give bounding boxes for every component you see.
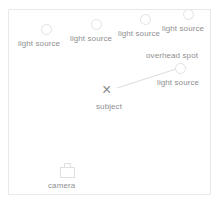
light-source-label: light source [118,29,160,38]
light-source-label: light source [18,39,60,48]
camera-body-icon [60,167,75,178]
overhead-spot-label: overhead spot [146,51,198,60]
subject-label: subject [96,102,122,111]
lighting-diagram: light source light source light source l… [0,0,220,205]
light-source-icon[interactable] [140,14,151,25]
light-source-icon[interactable] [175,63,186,74]
subject-marker-icon[interactable]: × [102,82,111,98]
light-source-icon[interactable] [41,24,52,35]
light-source-label: light source [162,24,204,33]
light-source-label: light source [70,34,112,43]
camera-icon[interactable] [60,163,75,178]
camera-label: camera [48,181,75,190]
light-source-label: light source [157,78,199,87]
light-source-icon[interactable] [91,19,102,30]
light-source-icon[interactable] [183,9,194,20]
